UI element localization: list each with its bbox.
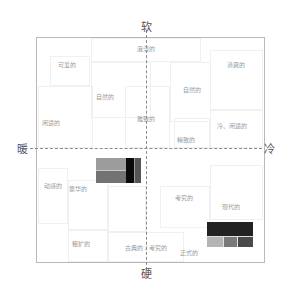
swatch-color: [96, 171, 126, 183]
axis-label-top: 软: [141, 18, 152, 34]
word-label: 现代的: [222, 202, 240, 211]
warm-hard-swatch: [96, 158, 141, 183]
swatch-color: [224, 237, 237, 247]
word-label: 古典的 / 考究的: [125, 243, 167, 252]
word-label: 冷、闲适的: [217, 121, 247, 130]
horizontal-axis: [30, 148, 262, 149]
word-label: 自然的: [96, 92, 114, 101]
region-cell: [210, 165, 263, 220]
swatch-color: [238, 237, 253, 247]
word-label: 清爽的: [227, 60, 245, 69]
word-label: 自然的: [183, 85, 201, 94]
region-cell: [38, 168, 68, 224]
axis-label-right: 冷: [264, 140, 275, 156]
word-label: 可爱的: [58, 60, 76, 69]
swatch-color: [135, 158, 141, 183]
region-cell: [108, 186, 146, 232]
word-label: 豪华的: [69, 184, 87, 193]
word-label: 粗犷的: [72, 239, 90, 248]
word-label: 正式的: [180, 248, 198, 257]
swatch-color: [126, 158, 134, 183]
swatch-color: [96, 158, 126, 170]
cool-hard-swatch: [207, 222, 253, 247]
word-label: 精致的: [177, 135, 195, 144]
axis-label-bottom: 硬: [141, 265, 152, 281]
axis-label-left: 暖: [17, 140, 28, 156]
word-label: 闲适的: [42, 118, 60, 127]
vertical-axis: [146, 30, 147, 270]
swatch-color: [207, 222, 253, 236]
swatch-color: [207, 237, 223, 247]
word-label: 雅致的: [137, 114, 155, 123]
region-cell: [174, 118, 210, 148]
word-label: 浪漫的: [137, 44, 155, 53]
word-label: 动感的: [44, 181, 62, 190]
word-label: 考究的: [175, 193, 193, 202]
